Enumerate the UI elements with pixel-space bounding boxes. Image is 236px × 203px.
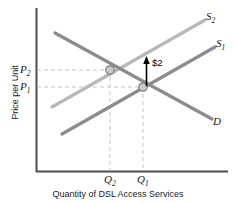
y-tick-label-p1: P1 [20, 81, 30, 95]
shift-amount-annotation: $2 [152, 58, 163, 68]
y-axis-title: Price per Unit [11, 53, 20, 133]
chart-canvas [0, 0, 236, 203]
series-label-demand: D [213, 116, 221, 127]
supply-curve-s2 [52, 20, 205, 107]
series-label-s1: S1 [216, 38, 225, 52]
demand-curve [55, 33, 212, 119]
x-tick-label-q2: Q2 [104, 174, 116, 188]
supply-curve-s1 [62, 47, 215, 134]
equilibrium-point-2 [106, 66, 114, 74]
x-axis-title: Quantity of DSL Access Services [0, 190, 236, 199]
x-tick-label-q1: Q1 [137, 174, 149, 188]
y-tick-label-p2: P2 [20, 64, 30, 78]
supply-demand-chart: Price per Unit Quantity of DSL Access Se… [0, 0, 236, 203]
series-label-s2: S2 [206, 11, 215, 25]
